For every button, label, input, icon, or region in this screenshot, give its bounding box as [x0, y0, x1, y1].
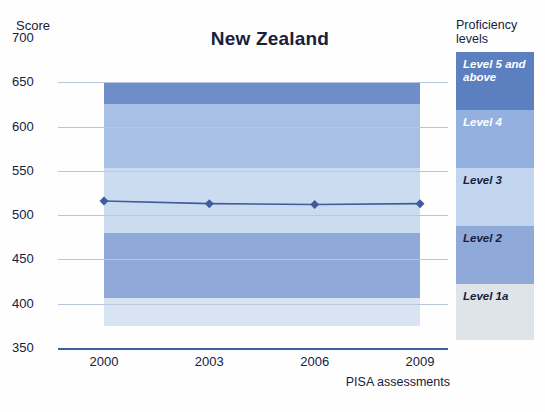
data-point-marker — [310, 200, 319, 209]
y-tick-label: 500 — [12, 207, 52, 222]
x-tick-label: 2003 — [195, 354, 224, 369]
y-tick-label: 400 — [12, 296, 52, 311]
legend-item-label: Level 4 — [463, 116, 527, 129]
data-point-marker — [100, 196, 109, 205]
x-axis — [58, 348, 448, 350]
y-tick-label: 550 — [12, 163, 52, 178]
legend-title: Proficiency levels — [456, 18, 534, 46]
y-tick-label: 450 — [12, 251, 52, 266]
y-tick-label: 700 — [12, 30, 52, 45]
legend-title-line1: Proficiency — [456, 18, 534, 32]
mean-score-line — [58, 38, 448, 348]
data-point-marker — [205, 199, 214, 208]
legend-item-label: Level 5 and above — [463, 58, 527, 84]
legend-item-level-4: Level 4 — [456, 110, 534, 168]
legend-stack: Level 5 and aboveLevel 4Level 3Level 2Le… — [456, 52, 534, 340]
trend-line — [104, 201, 420, 205]
x-tick-label: 2009 — [406, 354, 435, 369]
legend-item-level-1a: Level 1a — [456, 284, 534, 340]
legend-item-level-2: Level 2 — [456, 226, 534, 284]
legend-title-line2: levels — [456, 32, 534, 46]
y-tick-label: 650 — [12, 74, 52, 89]
plot-area: 700650600550500450400350 — [58, 38, 448, 348]
data-point-marker — [416, 199, 425, 208]
legend-item-label: Level 1a — [463, 290, 527, 303]
legend-item-label: Level 3 — [463, 174, 527, 187]
legend-item-label: Level 2 — [463, 232, 527, 245]
legend-item-level-3: Level 3 — [456, 168, 534, 226]
y-tick-label: 350 — [12, 340, 52, 355]
x-axis-label: PISA assessments — [346, 375, 450, 389]
x-tick-label: 2006 — [300, 354, 329, 369]
chart-page: Score New Zealand 7006506005505004504003… — [0, 0, 545, 412]
legend: Proficiency levels Level 5 and aboveLeve… — [456, 18, 534, 340]
x-tick-label: 2000 — [90, 354, 119, 369]
y-tick-label: 600 — [12, 119, 52, 134]
legend-item-level-5-and-above: Level 5 and above — [456, 52, 534, 110]
